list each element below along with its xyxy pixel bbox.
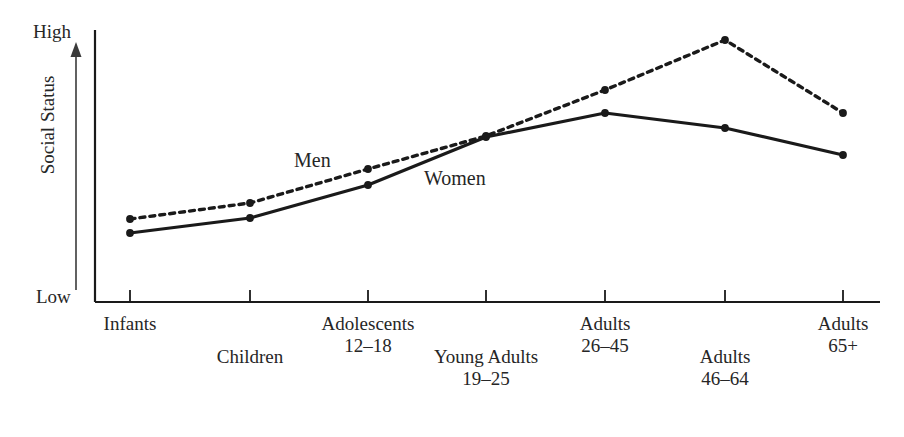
x-axis-tick-label-line1: Infants	[104, 313, 157, 334]
x-axis-ticks	[130, 290, 843, 302]
x-axis-tick-label-line1: Adults	[818, 313, 869, 334]
y-axis-low-label: Low	[36, 287, 71, 306]
x-axis-tick-label: Infants	[30, 313, 230, 335]
series-annotation-women: Women	[424, 168, 486, 188]
x-axis-tick-label-line2: 65+	[743, 335, 904, 357]
series-line-women	[130, 113, 843, 233]
chart-container: High Low Social Status Men Women Infants…	[0, 0, 904, 437]
series-annotation-men: Men	[294, 150, 331, 170]
series-markers-women	[126, 109, 847, 237]
x-axis-tick-label-line2: 19–25	[386, 368, 586, 390]
x-axis-tick-label-line1: Adults	[580, 313, 631, 334]
x-axis-tick-label: Adults65+	[743, 313, 904, 357]
y-axis-title-text: Social Status	[38, 76, 57, 175]
x-axis-tick-label-line1: Adolescents	[322, 313, 415, 334]
x-axis-tick-label-line2: 46–64	[625, 368, 825, 390]
y-axis-title: Social Status	[27, 60, 67, 190]
social-status-arrow-icon	[71, 42, 82, 290]
series-markers-men	[126, 36, 847, 223]
y-axis-high-label: High	[33, 22, 71, 41]
